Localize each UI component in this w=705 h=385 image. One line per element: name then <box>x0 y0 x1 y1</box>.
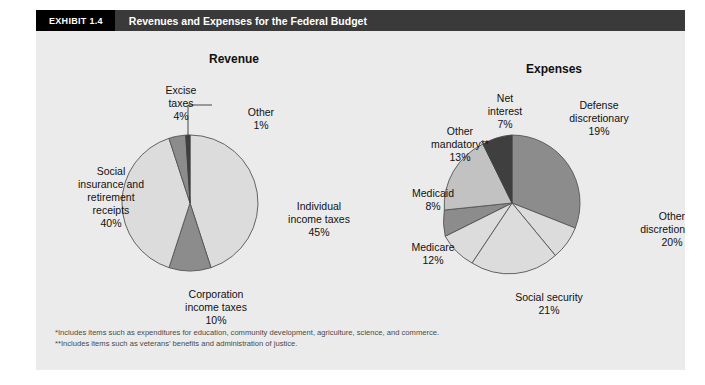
label-excise-taxes-value: 4% <box>141 110 221 123</box>
footnote-double-asterisk: **Includes items such as veterans’ benef… <box>55 339 615 350</box>
label-corporation-income-taxes: Corporation income taxes 10% <box>161 288 271 327</box>
label-individual-line2: income taxes <box>264 213 374 226</box>
label-other-revenue-value: 1% <box>221 119 301 132</box>
label-excise-taxes: Excise taxes 4% <box>141 84 221 123</box>
label-corporation-value: 10% <box>161 314 271 327</box>
footnote-single-asterisk: *Includes items such as expenditures for… <box>55 328 615 339</box>
label-other-discretionary-value: 20% <box>612 236 685 249</box>
label-individual-value: 45% <box>264 226 374 239</box>
label-other-revenue-line1: Other <box>221 106 301 119</box>
label-social-security: Social security 21% <box>484 291 614 317</box>
label-other-mandatory-line1: Other <box>408 125 512 138</box>
label-excise-taxes-line1: Excise <box>141 84 221 97</box>
label-corporation-line1: Corporation <box>161 288 271 301</box>
label-excise-taxes-line2: taxes <box>141 97 221 110</box>
footnotes: *Includes items such as expenditures for… <box>55 328 615 349</box>
label-individual-line1: Individual <box>264 200 374 213</box>
label-medicare: Medicare 12% <box>392 241 474 267</box>
label-other-discretionary-line1: Other <box>612 210 685 223</box>
label-net-interest-line1: Net <box>468 92 542 105</box>
label-other-mandatory-value: 13% <box>408 151 512 164</box>
label-social-insurance-line3: retirement <box>56 191 166 204</box>
label-social-insurance-line2: insurance and <box>56 178 166 191</box>
label-medicaid-line1: Medicaid <box>392 187 474 200</box>
label-social-insurance-line1: Social <box>56 165 166 178</box>
label-other-discretionary: Other discretionary* 20% <box>612 210 685 249</box>
label-medicaid: Medicaid 8% <box>392 187 474 213</box>
label-other-mandatory-line2: mandatory** <box>408 138 512 151</box>
label-medicare-line1: Medicare <box>392 241 474 254</box>
label-other-discretionary-line2: discretionary* <box>612 223 685 236</box>
label-defense-value: 19% <box>544 125 654 138</box>
label-medicare-value: 12% <box>392 254 474 267</box>
label-defense-line2: discretionary <box>544 112 654 125</box>
label-social-insurance-value: 40% <box>56 217 166 230</box>
label-social-security-value: 21% <box>484 304 614 317</box>
exhibit-panel: EXHIBIT 1.4 Revenues and Expenses for th… <box>36 10 685 370</box>
label-other-mandatory: Other mandatory** 13% <box>408 125 512 164</box>
label-corporation-line2: income taxes <box>161 301 271 314</box>
expenses-chart-title: Expenses <box>474 62 634 76</box>
label-net-interest-line2: interest <box>468 105 542 118</box>
label-social-security-line1: Social security <box>484 291 614 304</box>
label-other-revenue: Other 1% <box>221 106 301 132</box>
label-individual-income-taxes: Individual income taxes 45% <box>264 200 374 239</box>
label-medicaid-value: 8% <box>392 200 474 213</box>
label-defense-discretionary: Defense discretionary 19% <box>544 99 654 138</box>
label-social-insurance-receipts: Social insurance and retirement receipts… <box>56 165 166 230</box>
label-social-insurance-line4: receipts <box>56 204 166 217</box>
label-defense-line1: Defense <box>544 99 654 112</box>
